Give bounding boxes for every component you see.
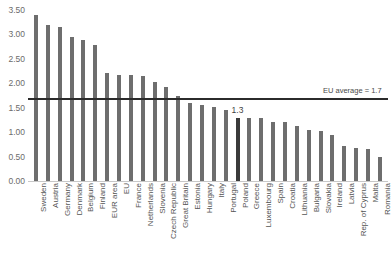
bar-slot	[30, 10, 42, 181]
bar-slot	[243, 10, 255, 181]
bar[interactable]	[342, 146, 346, 181]
bar[interactable]	[319, 131, 323, 181]
bar-slot	[291, 10, 303, 181]
x-axis-line	[28, 181, 388, 182]
bar-slot	[350, 10, 362, 181]
bar-slot	[279, 10, 291, 181]
bar-slot	[255, 10, 267, 181]
x-label-slot: Bulgaria	[303, 183, 315, 263]
bar[interactable]	[283, 122, 287, 181]
bar-slot	[326, 10, 338, 181]
x-label-slot: Rep. of Cyprus	[350, 183, 362, 263]
bar-slot: 1.3	[232, 10, 244, 181]
bar[interactable]	[93, 45, 97, 181]
bar[interactable]	[105, 73, 109, 181]
eu-average-line	[28, 98, 388, 101]
x-label-slot: Estonia	[184, 183, 196, 263]
y-axis-tick: 0.50	[8, 153, 25, 162]
x-label-slot: Slovakia	[315, 183, 327, 263]
y-axis-tick: 1.00	[8, 128, 25, 137]
bar-slot	[267, 10, 279, 181]
bar[interactable]	[164, 87, 168, 181]
bar-slot	[184, 10, 196, 181]
x-label-slot: EU	[113, 183, 125, 263]
bar-slot	[196, 10, 208, 181]
x-label-slot: Croatia	[279, 183, 291, 263]
y-axis-tick: 2.00	[8, 79, 25, 88]
bar[interactable]	[330, 135, 334, 181]
bar-slot	[160, 10, 172, 181]
bar[interactable]	[153, 82, 157, 181]
x-label-slot: Latvia	[338, 183, 350, 263]
x-label-slot: Czech Republic	[160, 183, 172, 263]
y-axis-tick: 3.00	[8, 30, 25, 39]
bar[interactable]	[129, 75, 133, 182]
bar[interactable]	[46, 25, 50, 181]
y-axis: 0.000.501.001.502.002.503.003.50	[0, 0, 28, 186]
bar[interactable]	[354, 148, 358, 181]
x-label-slot: Malta	[362, 183, 374, 263]
eu-average-label: EU average = 1.7	[323, 87, 382, 95]
bar[interactable]	[212, 107, 216, 181]
y-axis-tick: 2.50	[8, 55, 25, 64]
x-label-slot: Romania	[374, 183, 386, 263]
plot-area: 1.3 EU average = 1.7	[28, 10, 388, 181]
bar-value-label: 1.3	[232, 106, 244, 115]
x-label-slot: Sweden	[30, 183, 42, 263]
x-label-slot: Great Britain	[172, 183, 184, 263]
bar-slot	[77, 10, 89, 181]
bar[interactable]	[247, 118, 251, 182]
bar-slot	[315, 10, 327, 181]
bar[interactable]	[295, 126, 299, 181]
bar[interactable]	[366, 149, 370, 181]
x-label-slot: Slovenia	[149, 183, 161, 263]
bar[interactable]	[188, 103, 192, 181]
bar[interactable]	[117, 75, 121, 182]
bar-slot	[66, 10, 78, 181]
bar-slot	[208, 10, 220, 181]
y-axis-tick: 3.50	[8, 6, 25, 15]
bar-slot	[113, 10, 125, 181]
x-label-slot: Italy	[208, 183, 220, 263]
bar-slot	[338, 10, 350, 181]
bar-slot	[101, 10, 113, 181]
bar-slot	[172, 10, 184, 181]
bar[interactable]	[307, 130, 311, 181]
x-label-slot: Ireland	[326, 183, 338, 263]
x-label-slot: Portugal	[220, 183, 232, 263]
x-label-slot: Luxembourg	[255, 183, 267, 263]
bar[interactable]	[259, 118, 263, 181]
bar[interactable]	[378, 157, 382, 181]
x-label-slot: Denmark	[66, 183, 78, 263]
x-label-slot: Poland	[232, 183, 244, 263]
bar[interactable]	[271, 122, 275, 181]
bar[interactable]	[236, 118, 240, 182]
y-axis-tick: 0.00	[8, 177, 25, 186]
bar[interactable]	[224, 110, 228, 181]
bar-slot	[89, 10, 101, 181]
bar[interactable]	[200, 105, 204, 181]
bar-slot	[125, 10, 137, 181]
x-label-slot: Austria	[42, 183, 54, 263]
x-label-slot: Spain	[267, 183, 279, 263]
bar-slot	[362, 10, 374, 181]
x-label-slot: Finland	[89, 183, 101, 263]
bar[interactable]	[58, 27, 62, 181]
bar-slot	[149, 10, 161, 181]
bar-slot	[220, 10, 232, 181]
x-label-slot: Netherlands	[137, 183, 149, 263]
bar-slot	[54, 10, 66, 181]
bar[interactable]	[141, 76, 145, 181]
x-axis-tick-label: Romania	[384, 183, 392, 215]
y-axis-tick: 1.50	[8, 104, 25, 113]
bar[interactable]	[70, 37, 74, 181]
x-label-slot: Germany	[54, 183, 66, 263]
bar-slot	[137, 10, 149, 181]
bar-slot	[303, 10, 315, 181]
bar[interactable]	[176, 96, 180, 181]
x-label-slot: Hungary	[196, 183, 208, 263]
bar[interactable]	[81, 40, 85, 181]
x-label-slot: Belgium	[77, 183, 89, 263]
x-label-slot: Lithuania	[291, 183, 303, 263]
